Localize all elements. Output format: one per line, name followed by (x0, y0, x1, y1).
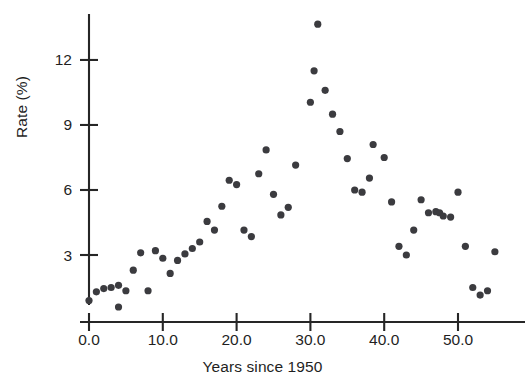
tick-labels-group: 369120.010.020.030.040.050.0 (55, 51, 474, 348)
data-points-group (85, 21, 498, 311)
data-point (425, 209, 432, 216)
data-point (137, 249, 144, 256)
x-axis-tick-label: 10.0 (148, 331, 179, 348)
y-axis-tick-label: 6 (63, 181, 72, 198)
data-point (351, 186, 358, 193)
x-axis-tick-label: 30.0 (295, 331, 326, 348)
data-point (336, 128, 343, 135)
data-point (159, 255, 166, 262)
data-point (167, 270, 174, 277)
data-point (233, 181, 240, 188)
data-point (322, 87, 329, 94)
data-point (263, 146, 270, 153)
y-axis-tick-label: 3 (63, 247, 72, 264)
y-axis-tick-label: 9 (63, 116, 72, 133)
x-axis-tick-label: 50.0 (443, 331, 474, 348)
data-point (196, 238, 203, 245)
data-point (240, 226, 247, 233)
data-point (203, 218, 210, 225)
data-point (366, 174, 373, 181)
data-point (270, 191, 277, 198)
plot-canvas: 369120.010.020.030.040.050.0 (0, 0, 525, 382)
data-point (100, 285, 107, 292)
data-point (344, 155, 351, 162)
data-point (410, 226, 417, 233)
data-point (469, 284, 476, 291)
data-point (130, 267, 137, 274)
data-point (108, 284, 115, 291)
data-point (462, 243, 469, 250)
data-point (189, 245, 196, 252)
data-point (255, 170, 262, 177)
data-point (174, 257, 181, 264)
data-point (484, 287, 491, 294)
data-point (477, 291, 484, 298)
data-point (292, 161, 299, 168)
data-point (314, 21, 321, 28)
data-point (329, 111, 336, 118)
data-point (226, 177, 233, 184)
axes-group (80, 14, 525, 331)
data-point (115, 282, 122, 289)
data-point (93, 288, 100, 295)
data-point (388, 198, 395, 205)
data-point (85, 297, 92, 304)
y-axis-tick-label: 12 (55, 51, 72, 68)
x-axis-title: Years since 1950 (0, 358, 525, 376)
data-point (277, 211, 284, 218)
data-point (418, 196, 425, 203)
data-point (403, 251, 410, 258)
data-point (310, 67, 317, 74)
x-axis-tick-label: 20.0 (222, 331, 253, 348)
data-point (285, 204, 292, 211)
data-point (115, 303, 122, 310)
data-point (122, 287, 129, 294)
data-point (381, 154, 388, 161)
data-point (307, 99, 314, 106)
data-point (248, 233, 255, 240)
data-point (491, 248, 498, 255)
data-point (218, 203, 225, 210)
scatter-plot-figure: Rate (%) 369120.010.020.030.040.050.0 Ye… (0, 0, 525, 382)
data-point (447, 213, 454, 220)
data-point (395, 243, 402, 250)
data-point (440, 212, 447, 219)
x-axis-tick-label: 40.0 (369, 331, 400, 348)
data-point (181, 250, 188, 257)
data-point (144, 287, 151, 294)
data-point (454, 189, 461, 196)
data-point (211, 226, 218, 233)
data-point (370, 141, 377, 148)
data-point (358, 189, 365, 196)
data-point (152, 247, 159, 254)
x-axis-tick-label: 0.0 (78, 331, 100, 348)
